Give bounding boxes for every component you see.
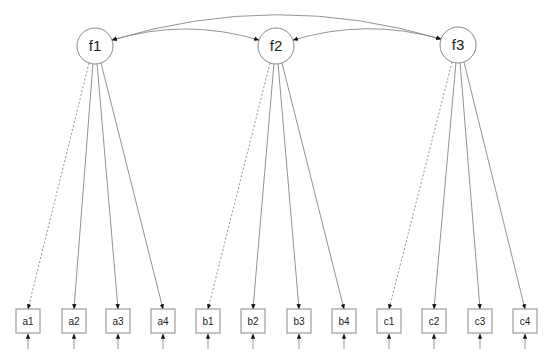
observed-node-b1[interactable]: b1 bbox=[196, 309, 220, 333]
observed-label: c3 bbox=[475, 316, 486, 327]
nodes: f1f2f3a1a2a3a4b1b2b3b4c1c2c3c4 bbox=[16, 27, 537, 333]
latent-node-f2[interactable]: f2 bbox=[258, 28, 294, 64]
observed-label: a4 bbox=[157, 316, 169, 327]
factor-loadings bbox=[28, 62, 525, 309]
observed-label: c4 bbox=[520, 316, 531, 327]
observed-label: b2 bbox=[247, 316, 259, 327]
latent-label: f1 bbox=[89, 37, 102, 54]
observed-node-c3[interactable]: c3 bbox=[468, 309, 492, 333]
loading-f3-c2 bbox=[434, 62, 456, 309]
observed-node-a1[interactable]: a1 bbox=[16, 309, 40, 333]
loading-f3-c4 bbox=[464, 62, 525, 309]
loading-f1-a4 bbox=[101, 63, 163, 309]
observed-label: c2 bbox=[429, 316, 440, 327]
latent-node-f1[interactable]: f1 bbox=[77, 28, 113, 64]
loading-f2-b1 bbox=[208, 63, 270, 309]
observed-node-c1[interactable]: c1 bbox=[377, 309, 401, 333]
observed-label: b3 bbox=[293, 316, 305, 327]
observed-node-c4[interactable]: c4 bbox=[513, 309, 537, 333]
observed-label: b1 bbox=[202, 316, 214, 327]
latent-node-f3[interactable]: f3 bbox=[440, 27, 476, 63]
loading-f2-b4 bbox=[282, 63, 344, 309]
latent-label: f2 bbox=[270, 37, 283, 54]
covariance-f2-f3 bbox=[293, 29, 441, 40]
loading-f2-b2 bbox=[253, 63, 274, 309]
observed-label: a2 bbox=[68, 316, 80, 327]
loading-f3-c1 bbox=[389, 62, 452, 309]
error-terms bbox=[28, 334, 525, 349]
observed-node-a3[interactable]: a3 bbox=[106, 309, 130, 333]
observed-node-a4[interactable]: a4 bbox=[151, 309, 175, 333]
loading-f1-a3 bbox=[97, 63, 118, 309]
sem-path-diagram: f1f2f3a1a2a3a4b1b2b3b4c1c2c3c4 bbox=[0, 0, 553, 361]
loading-f3-c3 bbox=[460, 62, 480, 309]
observed-node-b2[interactable]: b2 bbox=[241, 309, 265, 333]
latent-label: f3 bbox=[452, 36, 465, 53]
observed-node-a2[interactable]: a2 bbox=[62, 309, 86, 333]
loading-f1-a1 bbox=[28, 63, 89, 309]
loading-f2-b3 bbox=[278, 63, 299, 309]
observed-label: a1 bbox=[22, 316, 34, 327]
observed-node-b4[interactable]: b4 bbox=[332, 309, 356, 333]
observed-node-b3[interactable]: b3 bbox=[287, 309, 311, 333]
loading-f1-a2 bbox=[74, 63, 93, 309]
observed-label: b4 bbox=[338, 316, 350, 327]
covariance-f1-f2 bbox=[112, 29, 259, 40]
observed-label: c1 bbox=[384, 316, 395, 327]
observed-label: a3 bbox=[112, 316, 124, 327]
observed-node-c2[interactable]: c2 bbox=[422, 309, 446, 333]
